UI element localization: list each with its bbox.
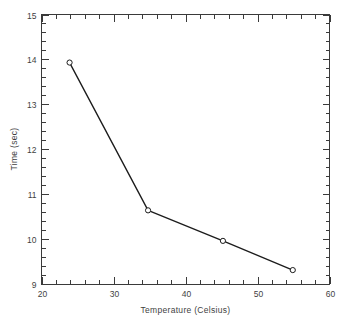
x-axis-title: Temperature (Celsius): [141, 305, 231, 315]
y-tick-label: 11: [28, 190, 37, 200]
x-tick-label: 50: [254, 289, 264, 299]
data-point-marker: [220, 238, 225, 243]
chart-background: [0, 0, 350, 324]
y-tick-label: 9: [32, 280, 37, 290]
y-tick-label: 12: [27, 145, 37, 155]
line-chart: 2030405060 9101112131415 Temperature (Ce…: [0, 0, 350, 324]
y-tick-label: 14: [27, 55, 37, 65]
x-tick-label: 40: [182, 289, 192, 299]
data-point-marker: [290, 267, 295, 272]
y-tick-label: 10: [27, 235, 37, 245]
y-tick-label: 13: [27, 100, 37, 110]
x-tick-label: 30: [110, 289, 120, 299]
x-tick-label: 60: [326, 289, 336, 299]
chart-figure: 2030405060 9101112131415 Temperature (Ce…: [0, 0, 350, 324]
y-axis-title: Time (sec): [9, 128, 19, 171]
data-point-marker: [67, 60, 72, 65]
y-tick-label: 15: [27, 11, 37, 21]
x-tick-label: 20: [38, 289, 48, 299]
data-point-marker: [145, 208, 150, 213]
